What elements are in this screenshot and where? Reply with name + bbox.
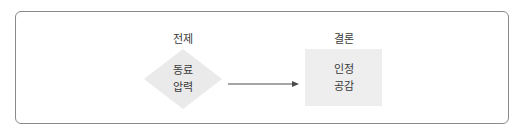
conclusion-heading: 결론 — [314, 33, 374, 47]
premise-node-text: 동료 압력 — [144, 49, 222, 109]
conclusion-node-text: 인정 공감 — [305, 49, 382, 106]
diagram-frame — [15, 11, 509, 124]
conclusion-node: 인정 공감 — [305, 49, 382, 106]
premise-node: 동료 압력 — [144, 49, 222, 109]
premise-line-1: 동료 — [173, 62, 193, 79]
premise-line-2: 압력 — [173, 79, 193, 96]
conclusion-line-1: 인정 — [334, 61, 354, 78]
arrow-right-icon — [228, 74, 300, 84]
conclusion-line-2: 공감 — [334, 78, 354, 95]
premise-heading: 전제 — [153, 33, 213, 47]
